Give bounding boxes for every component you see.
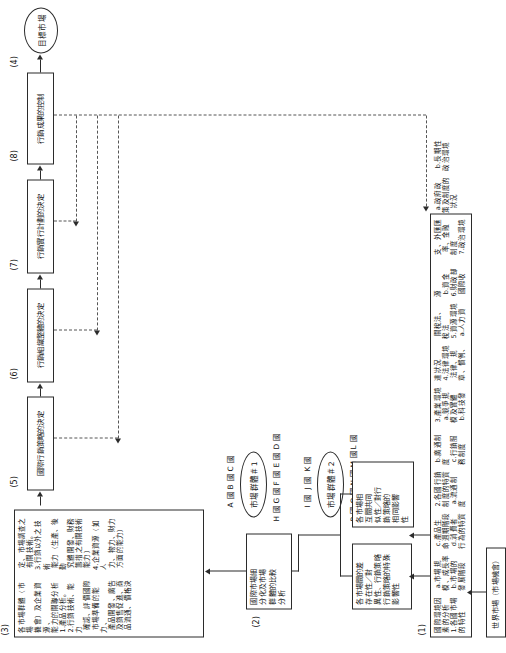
country-G: G 國 xyxy=(270,487,281,503)
country-B: B 國 xyxy=(224,474,235,489)
arrowhead-2-to-3 xyxy=(205,568,210,574)
step-tag-5: (5) xyxy=(10,476,19,487)
market-group-1-oval: 市場群體＃1 xyxy=(240,451,267,517)
node-end-label: 目標市場 xyxy=(36,13,47,47)
market-group-2-label: 市場群體＃2 xyxy=(325,460,336,507)
arrowhead-5-to-6 xyxy=(37,383,43,388)
connector-3-to-5 xyxy=(40,496,41,505)
connector-join-to-2 xyxy=(298,534,340,535)
step-tag-7: (7) xyxy=(10,259,19,270)
arrowhead-start-to-1 xyxy=(467,589,472,595)
country-A: A 國 xyxy=(224,492,235,507)
arrowhead-7-to-8 xyxy=(37,165,43,170)
node-market-similarities: 各市場相 互間共同 似性／對行 銷策略的 相同影響 性 xyxy=(352,461,414,527)
feedback-line-to-step7 xyxy=(76,115,77,221)
arrowhead-6-to-7 xyxy=(37,274,43,279)
connector-1-to-analysis xyxy=(414,534,430,535)
step-tag-8: (8) xyxy=(10,150,19,161)
connector-2-to-3 xyxy=(210,570,246,571)
step-tag-4: (4) xyxy=(10,56,19,67)
node-end-target-market: 目標市場 xyxy=(24,7,58,53)
country-J: J 國 xyxy=(301,477,312,489)
node-step-1: 國際環境因素的分析 1.各國市場的特性 a.市場規模、成長率 b.市場的發展階段… xyxy=(430,213,472,637)
node-step-8: 行銷成果的控制 xyxy=(27,72,54,164)
country-F: F 國 xyxy=(270,470,281,485)
node-step-3: 各市場群體（市場 機會）及企業資源、 能力的關聯分析 1.產品分析。 2.行銷技… xyxy=(14,509,204,637)
node-step-2: 國際市場細 分化及市場 群體的比較 分析 xyxy=(246,533,292,609)
country-I: I 國 xyxy=(301,495,312,507)
feedback-branch-step7 xyxy=(54,220,76,221)
node-market-differences: 各市場間的差 存在性／對 異性、行銷策略 行銷策略的特殊 影響性 xyxy=(352,543,412,609)
step-tag-6: (6) xyxy=(10,368,19,379)
node-step-5: 國際行銷策略的決定 xyxy=(27,396,54,490)
country-C: C 國 xyxy=(224,456,235,471)
arrowhead-1-to-analysis-b xyxy=(409,573,414,579)
market-group-1-label: 市場群體＃1 xyxy=(248,460,259,507)
connector-8-to-end xyxy=(40,59,41,72)
arrowhead-3-to-5 xyxy=(37,491,43,496)
connector-join-left-boxes xyxy=(340,493,341,576)
arrowhead-feedback-box1 xyxy=(423,206,429,211)
connector-1-to-analysis-b xyxy=(414,575,430,576)
arrowhead-feedback-step5 xyxy=(115,438,121,443)
connector-diff-up xyxy=(340,575,352,576)
connector-5-to-6 xyxy=(40,388,41,396)
arrowhead-feedback-step6 xyxy=(94,330,100,335)
arrowhead-1-to-analysis xyxy=(409,532,414,538)
connector-2-stem xyxy=(292,570,299,571)
connector-sim-up xyxy=(340,493,352,494)
node-start-world-market: 世界市場（市場機會） xyxy=(486,547,506,637)
connector-6-to-7 xyxy=(40,279,41,288)
node-step-6: 行銷組織整體的決定 xyxy=(27,288,54,382)
country-H: H 國 xyxy=(270,505,281,521)
country-E: E 國 xyxy=(270,452,281,467)
arrowhead-feedback-step7 xyxy=(73,221,79,226)
feedback-line-to-box1 xyxy=(426,115,427,206)
feedback-line-vertical-right xyxy=(54,114,426,115)
node-step-7: 行銷實行計劃的決定 xyxy=(27,179,54,273)
country-D: D 國 xyxy=(270,433,281,449)
country-K: K 國 xyxy=(301,456,312,471)
feedback-branch-step6 xyxy=(54,329,97,330)
feedback-line-to-step6 xyxy=(97,115,98,330)
arrowhead-8-to-end xyxy=(37,54,43,59)
step-tag-1: (1) xyxy=(418,624,427,635)
connector-join-to-2-h xyxy=(298,534,299,571)
connector-7-to-8 xyxy=(40,170,41,179)
country-L: L 國 xyxy=(347,435,358,449)
connector-start-to-1 xyxy=(472,591,486,592)
feedback-line-to-step5 xyxy=(118,115,119,438)
step-tag-3: (3) xyxy=(1,624,10,635)
step-tag-2: (2) xyxy=(252,616,261,627)
feedback-branch-step5 xyxy=(54,437,118,438)
